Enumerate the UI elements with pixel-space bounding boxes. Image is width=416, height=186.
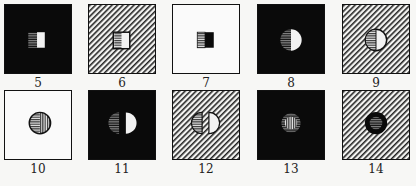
- panel-9: [342, 4, 410, 74]
- panel-label: 6: [88, 77, 156, 89]
- panel-label: 13: [257, 163, 325, 175]
- panel-10: [4, 90, 72, 160]
- panel-label: 10: [4, 163, 72, 175]
- panel-label: 8: [257, 77, 325, 89]
- panel-label: 14: [342, 163, 410, 175]
- separated-circle-icon: [173, 91, 239, 159]
- panel-5: [4, 4, 72, 74]
- panel-12: [172, 90, 240, 160]
- panel-13: [257, 90, 325, 160]
- split-circle-icon: [343, 5, 409, 73]
- panel-8: [257, 4, 325, 74]
- panel-6: [88, 4, 156, 74]
- panel-7: [172, 4, 240, 74]
- panel-14: [342, 90, 410, 160]
- panel-label: 5: [4, 77, 72, 89]
- panel-label: 12: [172, 163, 240, 175]
- split-circle-icon: [5, 91, 71, 159]
- split-square-icon: [89, 5, 155, 73]
- panel-label: 7: [172, 77, 240, 89]
- ring-circle-icon: [258, 91, 324, 159]
- ring-circle-icon: [343, 91, 409, 159]
- split-circle-icon: [258, 5, 324, 73]
- panel-11: [88, 90, 156, 160]
- separated-circle-icon: [89, 91, 155, 159]
- panel-label: 9: [342, 77, 410, 89]
- split-square-icon: [173, 5, 239, 73]
- split-square-icon: [5, 5, 71, 73]
- panel-label: 11: [88, 163, 156, 175]
